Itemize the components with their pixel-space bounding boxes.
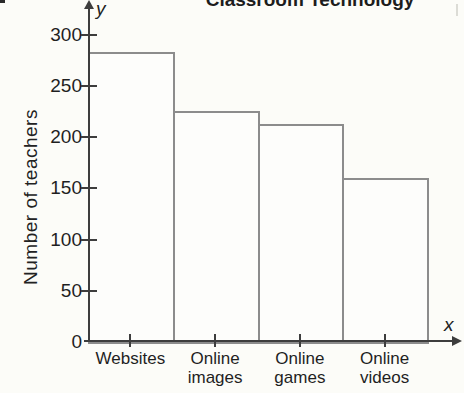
y-tick-label-250: 250 xyxy=(28,76,82,96)
y-tick-250 xyxy=(81,85,97,87)
bar-chart-figure: Classroom Technology Number of teachers … xyxy=(0,0,464,393)
x-axis-arrow-icon xyxy=(452,336,462,346)
x-tick-online-videos xyxy=(384,334,386,347)
x-tick-online-images xyxy=(214,334,216,347)
y-tick-200 xyxy=(81,136,97,138)
page-edge-artifact xyxy=(456,4,458,16)
y-axis-letter: y xyxy=(96,0,106,18)
x-tick-websites xyxy=(129,334,131,347)
bar-online-images xyxy=(173,111,260,344)
y-tick-50 xyxy=(81,290,97,292)
y-tick-label-100: 100 xyxy=(28,230,82,250)
chart-title: Classroom Technology xyxy=(206,0,415,10)
y-tick-label-50: 50 xyxy=(28,281,82,301)
x-tick-online-games xyxy=(299,334,301,347)
y-tick-label-150: 150 xyxy=(28,178,82,198)
bar-online-videos xyxy=(342,178,429,344)
bar-websites xyxy=(88,52,175,344)
x-axis-letter: x xyxy=(444,315,454,334)
x-axis-line xyxy=(84,340,454,342)
y-tick-150 xyxy=(81,187,97,189)
y-axis-arrow-icon xyxy=(84,0,94,9)
y-tick-label-300: 300 xyxy=(28,25,82,45)
y-tick-300 xyxy=(81,34,97,36)
y-tick-label-0: 0 xyxy=(28,332,82,352)
y-tick-label-200: 200 xyxy=(28,127,82,147)
bar-online-games xyxy=(258,124,345,344)
cropped-corner-artifact xyxy=(0,0,5,3)
y-tick-100 xyxy=(81,239,97,241)
x-label-online-videos: Online videos xyxy=(325,349,445,387)
